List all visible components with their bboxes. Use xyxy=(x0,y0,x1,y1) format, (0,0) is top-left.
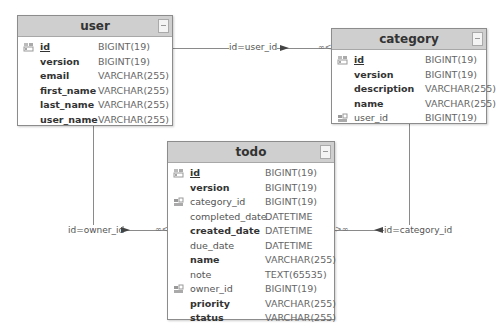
relation-label-category-todo: id=category_id xyxy=(384,225,452,236)
column-row[interactable]: versionBIGINT(19) xyxy=(168,181,334,196)
column-type: BIGINT(19) xyxy=(425,111,477,126)
column-row[interactable]: idBIGINT(19) xyxy=(18,40,172,55)
arrow-icon xyxy=(121,227,130,233)
column-type: VARCHAR(255) xyxy=(98,113,169,128)
column-name: created_date xyxy=(190,224,260,239)
relation-line-category-todo-vertical[interactable] xyxy=(409,122,410,230)
column-row[interactable]: versionBIGINT(19) xyxy=(332,68,486,83)
column-name: priority xyxy=(190,297,230,312)
column-name: first_name xyxy=(40,84,96,99)
column-type: BIGINT(19) xyxy=(265,195,317,210)
column-type: VARCHAR(255) xyxy=(265,311,336,326)
column-name: description xyxy=(354,82,414,97)
collapse-icon[interactable] xyxy=(472,32,483,46)
column-name: user_id xyxy=(354,111,388,126)
column-name: email xyxy=(40,69,69,84)
column-row[interactable]: priorityVARCHAR(255) xyxy=(168,297,334,312)
column-row[interactable]: due_dateDATETIME xyxy=(168,239,334,254)
column-row[interactable]: last_nameVARCHAR(255) xyxy=(18,98,172,113)
table-header-user[interactable]: user xyxy=(18,16,172,37)
relation-line-user-todo-vertical[interactable] xyxy=(93,124,94,230)
column-name: name xyxy=(190,253,220,268)
column-name: id xyxy=(354,53,364,68)
column-row[interactable]: versionBIGINT(19) xyxy=(18,55,172,70)
column-type: BIGINT(19) xyxy=(98,40,150,55)
column-row[interactable]: category_idBIGINT(19) xyxy=(168,195,334,210)
column-type: DATETIME xyxy=(265,210,313,225)
column-type: BIGINT(19) xyxy=(265,166,317,181)
column-type: DATETIME xyxy=(265,239,313,254)
column-name: id xyxy=(40,40,50,55)
column-name: version xyxy=(190,181,230,196)
key-icon xyxy=(23,42,34,52)
column-row[interactable]: user_nameVARCHAR(255) xyxy=(18,113,172,128)
column-type: VARCHAR(255) xyxy=(425,97,496,112)
column-row[interactable]: completed_dateDATETIME xyxy=(168,210,334,225)
crows-foot-icon: ∞< xyxy=(318,44,331,52)
column-type: VARCHAR(255) xyxy=(265,297,336,312)
column-row[interactable]: descriptionVARCHAR(255) xyxy=(332,82,486,97)
arrow-icon xyxy=(280,45,289,51)
column-name: id xyxy=(190,166,200,181)
column-name: last_name xyxy=(40,98,94,113)
column-type: VARCHAR(255) xyxy=(425,82,496,97)
column-row[interactable]: idBIGINT(19) xyxy=(168,166,334,181)
column-row[interactable]: first_nameVARCHAR(255) xyxy=(18,84,172,99)
column-name: category_id xyxy=(190,195,245,210)
column-list: idBIGINT(19)versionBIGINT(19)description… xyxy=(332,50,486,129)
table-todo[interactable]: todo idBIGINT(19)versionBIGINT(19)catego… xyxy=(167,141,335,320)
column-row[interactable]: owner_idBIGINT(19) xyxy=(168,282,334,297)
column-name: user_name xyxy=(40,113,98,128)
table-header-todo[interactable]: todo xyxy=(168,142,334,163)
column-type: VARCHAR(255) xyxy=(265,253,336,268)
column-type: BIGINT(19) xyxy=(265,282,317,297)
crows-foot-icon: >∞ xyxy=(335,226,348,234)
column-name: due_date xyxy=(190,239,234,254)
column-type: DATETIME xyxy=(265,224,313,239)
column-row[interactable]: nameVARCHAR(255) xyxy=(332,97,486,112)
column-type: BIGINT(19) xyxy=(425,53,477,68)
foreign-key-icon xyxy=(173,197,184,207)
relation-label-user-category: id=user_id xyxy=(229,42,277,53)
collapse-icon[interactable] xyxy=(158,19,169,33)
column-row[interactable]: noteTEXT(65535) xyxy=(168,268,334,283)
column-type: VARCHAR(255) xyxy=(98,69,169,84)
column-type: BIGINT(19) xyxy=(265,181,317,196)
column-type: BIGINT(19) xyxy=(98,55,150,70)
column-list: idBIGINT(19)versionBIGINT(19)category_id… xyxy=(168,163,334,329)
foreign-key-icon xyxy=(337,113,348,123)
column-name: version xyxy=(354,68,394,83)
column-name: name xyxy=(354,97,384,112)
key-icon xyxy=(173,168,184,178)
column-row[interactable]: nameVARCHAR(255) xyxy=(168,253,334,268)
column-type: TEXT(65535) xyxy=(265,268,327,283)
table-user[interactable]: user idBIGINT(19)versionBIGINT(19)emailV… xyxy=(17,15,173,126)
column-name: note xyxy=(190,268,211,283)
column-type: VARCHAR(255) xyxy=(98,84,169,99)
column-row[interactable]: idBIGINT(19) xyxy=(332,53,486,68)
relation-label-user-todo: id=owner_id xyxy=(68,225,124,236)
arrow-icon xyxy=(374,227,383,233)
foreign-key-icon xyxy=(173,284,184,294)
key-icon xyxy=(337,55,348,65)
column-name: completed_date xyxy=(190,210,267,225)
column-name: status xyxy=(190,311,224,326)
column-type: BIGINT(19) xyxy=(425,68,477,83)
table-title: user xyxy=(80,19,110,33)
column-row[interactable]: statusVARCHAR(255) xyxy=(168,311,334,326)
column-row[interactable]: user_idBIGINT(19) xyxy=(332,111,486,126)
column-name: owner_id xyxy=(190,282,233,297)
table-header-category[interactable]: category xyxy=(332,29,486,50)
collapse-icon[interactable] xyxy=(320,145,331,159)
column-row[interactable]: created_dateDATETIME xyxy=(168,224,334,239)
table-title: category xyxy=(379,32,439,46)
column-type: VARCHAR(255) xyxy=(98,98,169,113)
column-row[interactable]: emailVARCHAR(255) xyxy=(18,69,172,84)
column-list: idBIGINT(19)versionBIGINT(19)emailVARCHA… xyxy=(18,37,172,130)
table-title: todo xyxy=(236,145,267,159)
column-name: version xyxy=(40,55,80,70)
table-category[interactable]: category idBIGINT(19)versionBIGINT(19)de… xyxy=(331,28,487,124)
